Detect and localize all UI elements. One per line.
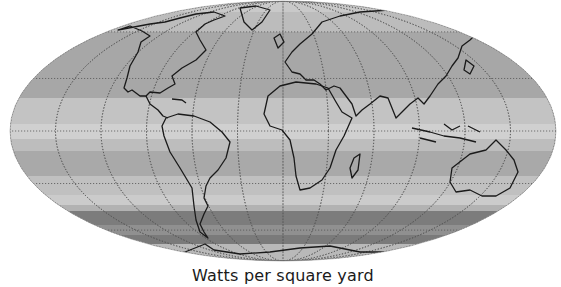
band <box>0 211 561 225</box>
band <box>0 98 561 124</box>
band <box>0 244 561 262</box>
band <box>0 195 561 205</box>
map-caption: Watts per square yard <box>0 266 561 285</box>
band <box>0 176 561 195</box>
world-map <box>0 0 561 264</box>
band <box>0 225 561 235</box>
band <box>0 0 561 12</box>
band <box>0 235 561 244</box>
band <box>0 139 561 151</box>
band <box>0 205 561 211</box>
band <box>0 124 561 139</box>
band <box>0 12 561 32</box>
band <box>0 151 561 176</box>
